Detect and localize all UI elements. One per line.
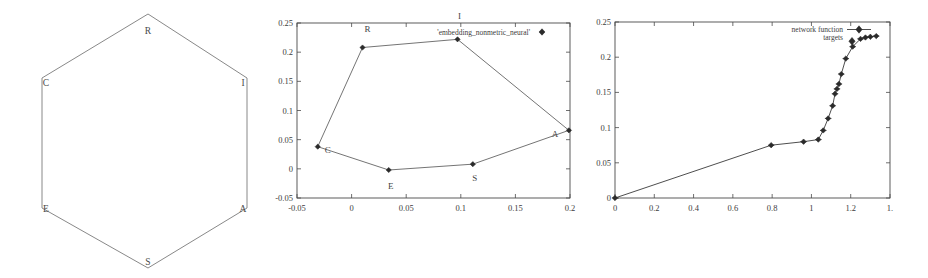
y-tick-label: 0.1 [600, 123, 611, 133]
network-svg: 00.20.40.60.811.21.00.050.10.150.20.25 n… [600, 0, 928, 278]
x-tick-label: -0.05 [288, 203, 306, 213]
hexagon-label-C: C [43, 78, 49, 88]
x-tick-label: 0.4 [688, 203, 699, 213]
embedding-axis-ticks: -0.0500.050.10.150.2-0.0500.050.10.150.2… [275, 18, 575, 213]
legend-diamond-icon [856, 26, 862, 33]
network-axis-ticks: 00.20.40.60.811.21.00.050.10.150.20.25 [596, 17, 893, 213]
network-function-panel: 00.20.40.60.811.21.00.050.10.150.20.25 n… [600, 0, 928, 278]
y-tick-label: 0.15 [278, 76, 293, 86]
embedding-label-R: R [365, 24, 371, 34]
hexagon-label-A: A [240, 204, 247, 214]
x-tick-label: 0.2 [565, 203, 576, 213]
embedding-legend: 'embedding_nonmetric_neural' [437, 28, 545, 37]
embedding-svg: -0.0500.050.10.150.2-0.0500.050.10.150.2… [280, 0, 600, 278]
x-tick-label: 0 [349, 203, 353, 213]
embedding-point-core-I [457, 38, 459, 40]
network-legend-label-targets: targets [823, 33, 843, 42]
y-tick-label: 0.2 [282, 47, 293, 57]
y-tick-label: 0.1 [282, 106, 293, 116]
y-tick-label: 0.25 [278, 18, 293, 28]
x-tick-label: 0 [613, 203, 617, 213]
network-data-points [612, 33, 880, 200]
hexagon-vertex-labels: RIASEC [43, 26, 247, 267]
embedding-point-core-C [317, 146, 319, 148]
x-tick-label: 0.2 [649, 203, 660, 213]
network-function-line [615, 36, 876, 198]
y-tick-label: 0.15 [596, 87, 611, 97]
x-tick-label: 1 [809, 203, 813, 213]
network-legend: network function targets [792, 25, 871, 45]
embedding-label-E: E [388, 181, 394, 191]
figure-container: RIASEC -0.0500.050.10.150.2-0.0500.050.1… [0, 0, 928, 278]
embedding-scatter-panel: -0.0500.050.10.150.2-0.0500.050.10.150.2… [280, 0, 600, 278]
x-tick-label: 0.15 [508, 203, 523, 213]
embedding-plot-frame [297, 23, 570, 198]
x-tick-label: 0.6 [728, 203, 739, 213]
hexagon-label-R: R [145, 26, 152, 36]
y-tick-label: -0.05 [275, 193, 293, 203]
x-tick-label: 1. [887, 203, 893, 213]
embedding-point-core-A [568, 129, 570, 131]
y-tick-label: 0.25 [596, 17, 611, 27]
y-tick-label: 0.2 [600, 52, 611, 62]
embedding-label-A: A [552, 129, 559, 139]
y-tick-label: 0 [289, 164, 293, 174]
hexagon-diagram-panel: RIASEC [0, 0, 280, 278]
embedding-label-S: S [472, 173, 477, 183]
hexagon-label-I: I [241, 78, 244, 88]
embedding-legend-label: 'embedding_nonmetric_neural' [437, 28, 530, 37]
hexagon-label-E: E [43, 204, 49, 214]
legend-target-marker-icon [849, 38, 855, 45]
y-tick-label: 0.05 [596, 158, 611, 168]
x-tick-label: 0.8 [767, 203, 778, 213]
hexagon-outline [42, 14, 247, 268]
embedding-point-core-S [472, 163, 474, 165]
hexagon-label-S: S [145, 257, 150, 267]
embedding-polygon [318, 39, 569, 170]
legend-marker-icon [539, 29, 545, 35]
y-tick-label: 0 [607, 193, 611, 203]
hexagon-svg: RIASEC [0, 0, 280, 278]
embedding-point-core-E [388, 169, 390, 171]
network-plot-frame [615, 22, 890, 198]
embedding-label-C: C [325, 145, 331, 155]
embedding-point-core-R [362, 47, 364, 49]
y-tick-label: 0.05 [278, 135, 293, 145]
embedding-label-I: I [458, 11, 461, 21]
x-tick-label: 0.1 [455, 203, 466, 213]
x-tick-label: 0.05 [399, 203, 414, 213]
x-tick-label: 1.2 [845, 203, 856, 213]
